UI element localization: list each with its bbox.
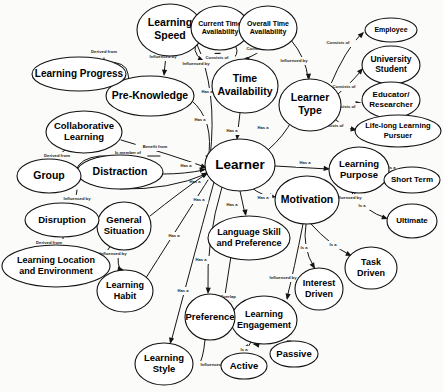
node-interest_driven[interactable]: InterestDriven [295,268,343,310]
node-task_driven[interactable]: TaskDriven [345,247,397,289]
edge-learner-to-motivation: Has a [252,188,276,202]
node-group[interactable]: Group [17,159,81,193]
node-short_term[interactable]: Short Term [384,167,440,193]
edge-arrowhead [161,69,167,76]
node-educator[interactable]: Educator/Researcher [362,82,420,118]
node-label: Learning [144,352,184,363]
node-label: Ultimate [396,216,428,225]
edge-label: Has a [201,89,213,94]
node-ultimate[interactable]: Ultimate [387,204,437,238]
node-label: Habit [114,291,137,301]
node-label: Pursuer [384,131,412,140]
node-label: Learning Progress [35,68,124,79]
node-label: Availability [202,28,239,36]
node-collaborative[interactable]: CollaborativeLearning [46,111,122,153]
node-distraction[interactable]: Distraction [77,155,163,189]
edge-line [199,340,205,364]
node-label: Learning [245,309,283,319]
edge-label: Has a [195,257,207,262]
node-label: Preference [185,311,234,322]
node-label: Overall Time [247,20,289,27]
node-label: Style [153,363,176,374]
node-label: Educator/ [373,90,411,99]
concept-map-svg: Derived fromInfluenced byHas aHas aConsi… [0,0,443,392]
node-label: Current Time [198,20,242,27]
node-disruption[interactable]: Disruption [25,203,99,237]
node-label: Pre-Knowledge [112,89,189,101]
node-lifelong[interactable]: Life-long LearningPursuer [355,115,441,147]
edge-label: Is a [241,347,249,352]
node-label: Life-long Learning [365,121,431,130]
node-label: Learning [64,131,104,142]
node-label: Active [230,360,259,371]
edge-label: Derived from [36,240,62,245]
edge-label: Has a [177,288,189,293]
node-learning_purpose[interactable]: LearningPurpose [329,147,389,193]
edge-learner-to-language_skill: Has a [223,191,249,216]
node-active[interactable]: Active [221,353,267,379]
edge-line [191,100,210,160]
node-label: Situation [104,225,145,236]
node-preference[interactable]: Preference [185,294,235,340]
node-label: Group [33,169,65,181]
node-label: and Environment [19,266,93,276]
node-label: Employee [374,26,407,34]
edge-arrowhead [284,293,290,300]
node-university_student[interactable]: UniversityStudent [362,46,420,84]
edge-motivation-to-interest_driven: Is a [296,224,317,270]
edge-label: Influenced by [281,58,309,63]
edge-label: Consists of [206,55,229,60]
node-learner_type[interactable]: LearnerType [279,79,341,131]
node-label: Learning [339,158,379,169]
node-learning_engagement[interactable]: LearningEngagement [231,296,297,344]
edge-language_skill-to-learning_engagement: Overlap [216,256,240,302]
node-label: Collaborative [54,120,114,131]
node-label: Researcher [369,100,413,109]
edge-label: Has a [257,195,269,200]
edge-learner-to-learning_purpose: Has a [275,159,330,172]
node-learning_style[interactable]: LearningStyle [135,343,193,385]
node-label: Disruption [38,214,86,225]
node-time_avail[interactable]: TimeAvailability [212,59,278,113]
node-label: Learner [215,157,265,172]
node-learner[interactable]: Learner [205,139,275,191]
node-label: Driven [357,268,385,278]
node-general_situation[interactable]: GeneralSituation [97,202,151,250]
node-label: Driven [305,289,333,299]
node-label: Engagement [237,320,291,330]
edge-motivation-to-task_driven: Is a [311,224,353,258]
node-learning_habit[interactable]: LearningHabit [97,270,153,312]
edge-label: Has a [193,197,205,202]
node-employee[interactable]: Employee [365,18,417,42]
edge-label: Consists of [327,40,350,45]
node-label: General [106,214,141,225]
edge-learner_type-to-employee: Consists of [320,30,366,86]
edge-learner-to-learning_habit: Has a [141,180,208,284]
edge-label: Influenced by [183,61,211,66]
concept-map-canvas: Derived fromInfluenced byHas aHas aConsi… [0,0,443,392]
edge-learning_engagement-to-active: Is a [236,342,252,354]
node-label: Student [375,64,407,74]
node-label: and Preference [216,238,281,248]
edge-time_avail-to-learner: Has a [223,113,242,140]
node-learning_progress[interactable]: Learning Progress [32,57,126,91]
edge-line [311,224,350,255]
node-label: Distraction [93,165,148,177]
node-label: Language Skill [217,227,281,237]
node-passive[interactable]: Passive [270,341,318,367]
node-label: Availability [217,85,272,97]
edge-label: Derived from [91,49,117,54]
node-language_skill[interactable]: Language Skilland Preference [208,216,290,260]
edge-label: Has a [168,233,180,238]
node-overall_time[interactable]: Overall TimeAvailability [239,6,297,50]
node-label: Learner [291,91,330,103]
node-motivation[interactable]: Motivation [275,176,339,224]
edge-label: Is a [301,245,309,250]
edge-label: Influenced by [64,196,92,201]
edge-line [163,170,204,174]
edge-label: Benefit from [143,144,168,149]
node-learning_location[interactable]: Learning Locationand Environment [2,245,110,287]
edge-label: Consists of [333,84,356,89]
node-label: Motivation [281,193,334,205]
edge-label: Is a [330,242,338,247]
